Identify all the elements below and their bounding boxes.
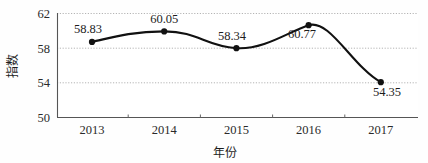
x-tick-label-2013: 2013	[80, 123, 105, 137]
y-tick-label-58: 58	[38, 42, 51, 56]
data-label-2015: 58.34	[218, 29, 247, 43]
data-point-2013	[89, 39, 95, 45]
data-label-2013: 58.83	[74, 22, 102, 36]
y-tick-label-54: 54	[38, 76, 51, 90]
x-tick-label-2017: 2017	[368, 123, 393, 137]
y-axis-title: 指数	[5, 54, 20, 78]
x-tick-label-2015: 2015	[224, 123, 249, 137]
y-tick-label-62: 62	[38, 7, 51, 21]
data-label-2017: 54.35	[373, 85, 401, 99]
line-chart: 62 58 54 50 2013 2014 2015 2016 2017 58.…	[0, 0, 428, 163]
x-axis-title: 年份	[213, 146, 237, 160]
data-label-2016: 60.77	[288, 27, 316, 41]
data-point-2014	[161, 28, 167, 34]
x-tick-label-2014: 2014	[152, 123, 178, 137]
x-tick-label-2016: 2016	[296, 123, 321, 137]
data-point-2015	[233, 45, 239, 51]
chart-canvas: 62 58 54 50 2013 2014 2015 2016 2017 58.…	[0, 0, 428, 163]
y-tick-label-50: 50	[38, 111, 51, 125]
data-label-2014: 60.05	[150, 12, 178, 26]
